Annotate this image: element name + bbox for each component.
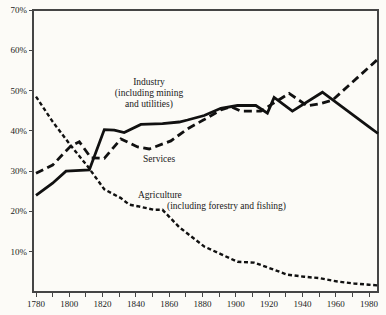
agriculture-series-label: Agriculture (including forestry and fish… — [138, 190, 286, 212]
x-axis-tick-label: 1780 — [27, 299, 46, 309]
agriculture-label-line1: Agriculture — [138, 190, 286, 201]
industry-label-line2: (including mining — [101, 88, 197, 99]
y-axis-tick-label: 70% — [11, 5, 28, 15]
y-axis-tick-label: 30% — [11, 166, 28, 176]
industry-series-label: Industry (including mining and utilities… — [101, 77, 197, 111]
x-axis-tick-label: 1860 — [160, 299, 179, 309]
y-axis-tick-label: 40% — [11, 126, 28, 136]
y-axis-tick-label: 60% — [11, 45, 28, 55]
industry-label-line3: and utilities) — [101, 99, 197, 110]
x-axis-tick-label: 1920 — [260, 299, 279, 309]
x-axis-tick-label: 1960 — [327, 299, 346, 309]
chart-plot-area: 10%20%30%40%50%60%70%1780180018201840186… — [0, 0, 386, 315]
x-axis-tick-label: 1800 — [60, 299, 79, 309]
x-axis-tick-label: 1820 — [94, 299, 113, 309]
y-axis-tick-label: 20% — [11, 206, 28, 216]
x-axis-tick-label: 1940 — [293, 299, 312, 309]
figure: 10%20%30%40%50%60%70%1780180018201840186… — [0, 0, 386, 315]
x-axis-tick-label: 1980 — [360, 299, 379, 309]
industry-label-line1: Industry — [101, 77, 197, 88]
y-axis-tick-label: 50% — [11, 86, 28, 96]
x-axis-tick-label: 1880 — [194, 299, 213, 309]
services-label-line1: Services — [143, 154, 175, 165]
industry-line — [36, 92, 378, 195]
x-axis-tick-label: 1840 — [127, 299, 146, 309]
services-series-label: Services — [143, 154, 175, 165]
y-axis-tick-label: 10% — [11, 247, 28, 257]
agriculture-label-line2: (including forestry and fishing) — [167, 201, 286, 212]
x-axis-tick-label: 1900 — [227, 299, 246, 309]
services-line — [36, 59, 378, 173]
